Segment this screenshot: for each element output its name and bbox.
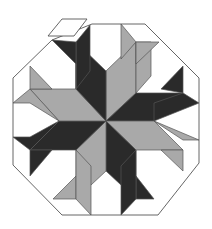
quilt-figure: Octagonal eight-pointed star tiling with…: [0, 0, 212, 229]
star-octagon-diagram: [0, 0, 212, 229]
